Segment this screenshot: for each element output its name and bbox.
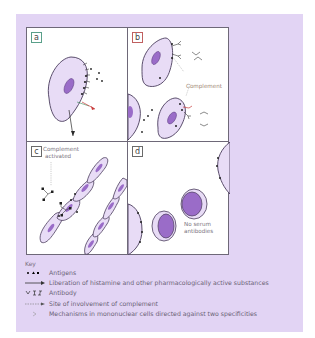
antigen-dots-icon: [25, 268, 47, 278]
key-label: Mechanisms in mononuclear cells directed…: [49, 309, 257, 319]
panel-d-label: d: [132, 146, 143, 157]
key-label: Antigens: [49, 268, 76, 278]
dashed-arrow-icon: [25, 299, 47, 309]
key-item-antibody: Antibody: [25, 288, 305, 298]
key-item-antigens: Antigens: [25, 268, 305, 278]
key-item-complement-site: Site of involvement of complement: [25, 299, 305, 309]
no-serum-annotation-line1: No serum: [184, 221, 211, 228]
panel-a-illustration: [27, 28, 127, 141]
key-label: Antibody: [49, 288, 77, 298]
complement-activated-annotation-line2: activated: [45, 153, 71, 160]
antibody-icon: [25, 288, 47, 298]
panel-c: c Complement activated: [27, 142, 127, 255]
panel-b-label: b: [132, 32, 143, 43]
no-serum-annotation-line2: antibodies: [184, 228, 213, 235]
panel-c-illustration: [27, 142, 127, 255]
panel-a: a: [27, 28, 127, 141]
key-item-mononuclear: Mechanisms in mononuclear cells directed…: [25, 309, 305, 319]
figure-panel-grid: a b: [26, 27, 229, 255]
panel-d-illustration: [128, 142, 230, 255]
key-title: Key: [25, 259, 305, 268]
complement-annotation: Complement: [186, 83, 222, 90]
figure-key: Key Antigens Liberation of histamine and…: [25, 259, 305, 319]
chevron-icon: [25, 309, 47, 319]
key-label: Site of involvement of complement: [49, 299, 158, 309]
panel-b: b Complement: [128, 28, 230, 141]
panel-a-label: a: [31, 32, 42, 43]
panel-d: d No serum antibodies: [128, 142, 230, 255]
arrow-icon: [25, 278, 47, 288]
complement-activated-annotation-line1: Complement: [43, 146, 79, 153]
key-label: Liberation of histamine and other pharma…: [49, 278, 269, 288]
panel-c-label: c: [31, 146, 42, 157]
key-item-liberation: Liberation of histamine and other pharma…: [25, 278, 305, 288]
